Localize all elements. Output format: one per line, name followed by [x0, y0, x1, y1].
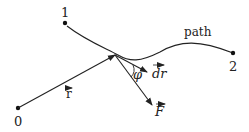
displacement-vector-arrow: [115, 55, 147, 72]
displacement-vector-label: dr: [152, 66, 167, 81]
work-diagram: 1 2 0 path r φ dr F: [0, 0, 249, 132]
point-1-label: 1: [61, 5, 69, 20]
angle-label: φ: [133, 67, 143, 82]
position-vector-label: r: [66, 87, 72, 101]
point-0-label: 0: [14, 114, 22, 129]
force-vector-label: F: [154, 104, 165, 119]
point-1-dot: [63, 21, 67, 25]
point-2-dot: [231, 51, 235, 55]
path-label: path: [184, 25, 212, 39]
point-2-label: 2: [229, 59, 237, 74]
